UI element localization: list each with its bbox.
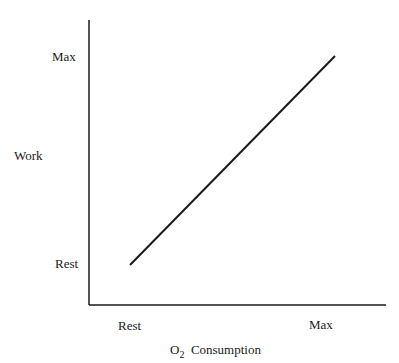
y-tick-rest: Rest <box>55 256 78 272</box>
x-title-rest: Consumption <box>191 342 261 357</box>
x-tick-rest: Rest <box>118 318 141 334</box>
x-title-o: O <box>170 342 179 357</box>
x-title-subscript: 2 <box>179 349 184 360</box>
x-axis-title: O2 Consumption <box>170 342 261 358</box>
data-line <box>130 56 335 265</box>
y-axis-label: Work <box>14 148 43 164</box>
x-tick-max: Max <box>309 317 333 333</box>
y-tick-max: Max <box>52 49 76 65</box>
